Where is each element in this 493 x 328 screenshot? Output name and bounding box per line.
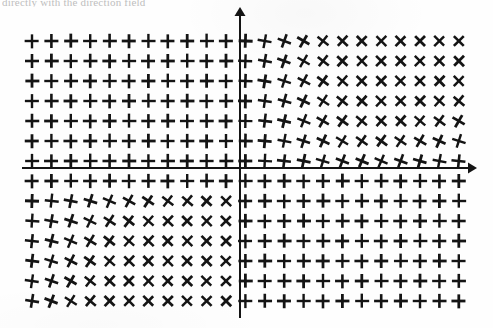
field-marker xyxy=(197,251,217,271)
field-marker xyxy=(352,131,371,150)
field-marker xyxy=(83,74,97,88)
field-marker xyxy=(336,214,350,228)
field-marker xyxy=(102,154,116,168)
field-marker xyxy=(100,192,118,210)
field-marker xyxy=(449,112,468,131)
field-marker xyxy=(42,252,59,269)
field-marker xyxy=(180,74,194,88)
field-marker xyxy=(410,71,430,91)
field-marker xyxy=(372,131,392,151)
direction-field-plot xyxy=(0,0,493,328)
field-marker xyxy=(196,231,216,251)
field-marker xyxy=(120,251,140,271)
field-marker xyxy=(452,174,466,188)
field-marker xyxy=(200,34,214,48)
field-marker xyxy=(197,291,217,311)
field-marker xyxy=(158,271,178,291)
field-marker xyxy=(352,31,372,51)
field-marker xyxy=(336,254,350,268)
field-marker xyxy=(196,271,216,291)
field-marker xyxy=(333,111,353,131)
field-marker xyxy=(138,291,158,311)
field-marker xyxy=(61,232,79,250)
field-marker xyxy=(122,54,136,68)
field-marker xyxy=(371,51,391,71)
field-marker xyxy=(449,91,469,111)
field-marker xyxy=(335,234,349,248)
field-marker xyxy=(200,114,214,128)
field-marker xyxy=(180,34,194,48)
field-marker xyxy=(199,54,213,68)
field-marker xyxy=(103,74,117,88)
field-marker xyxy=(275,52,293,70)
field-marker xyxy=(100,211,119,230)
field-marker xyxy=(452,234,466,248)
field-marker xyxy=(449,71,469,91)
field-marker xyxy=(413,294,427,308)
field-marker xyxy=(277,214,291,228)
field-marker xyxy=(138,191,157,210)
field-marker xyxy=(83,174,97,188)
field-marker xyxy=(258,274,272,288)
field-marker xyxy=(277,174,291,188)
field-marker xyxy=(177,271,197,291)
field-marker xyxy=(160,34,174,48)
field-marker xyxy=(122,154,136,168)
field-marker xyxy=(257,53,273,69)
field-marker xyxy=(43,232,60,249)
field-marker xyxy=(294,32,313,51)
field-marker xyxy=(25,134,39,148)
field-marker xyxy=(64,94,78,108)
field-marker xyxy=(216,231,236,251)
field-marker xyxy=(24,273,40,289)
field-marker xyxy=(122,94,136,108)
field-marker xyxy=(449,51,469,71)
field-marker xyxy=(141,154,155,168)
field-marker xyxy=(295,71,314,90)
field-marker xyxy=(25,114,39,128)
field-marker xyxy=(433,254,447,268)
field-marker xyxy=(355,274,369,288)
field-marker xyxy=(138,251,158,271)
field-marker xyxy=(102,94,116,108)
field-marker xyxy=(142,94,156,108)
field-marker xyxy=(25,94,39,108)
field-marker xyxy=(276,113,293,130)
y-axis-arrowhead xyxy=(235,7,246,16)
field-marker xyxy=(410,111,430,131)
field-marker xyxy=(333,71,353,91)
field-marker xyxy=(25,213,40,228)
field-marker xyxy=(275,72,293,90)
field-marker xyxy=(314,51,334,71)
field-marker xyxy=(429,91,449,111)
field-marker xyxy=(103,134,117,148)
field-marker xyxy=(336,174,350,188)
field-marker xyxy=(139,231,159,251)
field-marker xyxy=(44,74,58,88)
field-marker xyxy=(258,194,272,208)
field-marker xyxy=(394,294,408,308)
field-marker xyxy=(42,292,60,310)
field-marker xyxy=(141,74,155,88)
field-marker xyxy=(120,191,139,210)
field-marker xyxy=(296,174,310,188)
field-marker xyxy=(64,154,78,168)
field-marker xyxy=(142,174,156,188)
field-marker xyxy=(355,194,369,208)
field-marker xyxy=(219,54,233,68)
field-marker xyxy=(219,154,233,168)
field-marker xyxy=(355,214,369,228)
field-marker xyxy=(278,234,292,248)
field-marker xyxy=(332,91,352,111)
field-marker xyxy=(199,94,213,108)
field-marker xyxy=(180,94,194,108)
field-marker xyxy=(371,71,391,91)
field-marker xyxy=(375,274,389,288)
field-marker xyxy=(62,193,78,209)
field-marker xyxy=(294,92,313,111)
field-marker xyxy=(177,291,197,311)
field-marker xyxy=(294,132,312,150)
field-marker xyxy=(219,74,233,88)
field-marker xyxy=(180,114,194,128)
field-marker xyxy=(374,254,388,268)
